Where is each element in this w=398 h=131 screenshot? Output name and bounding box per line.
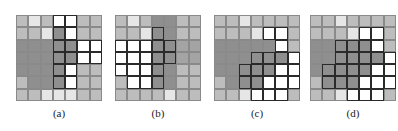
grid-cell (239, 76, 251, 88)
grid-cell (359, 89, 371, 101)
grid-cell (176, 27, 188, 39)
grid-cell (176, 52, 188, 64)
grid-cell (310, 52, 322, 64)
grid-cell (41, 76, 53, 88)
grid-cell (214, 64, 226, 76)
grid-cell (263, 27, 275, 39)
grid-cell (77, 52, 89, 64)
grid-cell (335, 15, 347, 27)
grid-cell (115, 40, 127, 52)
grid-cell (263, 40, 275, 52)
grid-cell (176, 15, 188, 27)
grid-cell (140, 40, 152, 52)
grid-cell (251, 64, 263, 76)
grid (310, 15, 396, 101)
grid-cell (189, 76, 201, 88)
grid-cell (65, 40, 77, 52)
grid-cell (335, 89, 347, 101)
grid-cell (152, 89, 164, 101)
grid-cell (226, 27, 238, 39)
grid-cell (226, 64, 238, 76)
grid-cell (251, 40, 263, 52)
grid-cell (214, 89, 226, 101)
grid-cell (176, 40, 188, 52)
grid-cell (189, 15, 201, 27)
grid-cell (347, 52, 359, 64)
grid-cell (359, 27, 371, 39)
grid-cell (115, 15, 127, 27)
grid-cell (189, 27, 201, 39)
grid-cell (359, 64, 371, 76)
panel-label: (c) (214, 107, 300, 119)
grid-cell (322, 27, 334, 39)
grid-cell (65, 52, 77, 64)
grid-cell (384, 64, 396, 76)
grid-cell (16, 40, 28, 52)
grid-cell (371, 76, 383, 88)
grid-cell (16, 76, 28, 88)
grid-cell (140, 89, 152, 101)
grid-cell (115, 76, 127, 88)
grid-cell (127, 52, 139, 64)
grid-cell (288, 15, 300, 27)
grid-cell (164, 40, 176, 52)
grid-cell (164, 52, 176, 64)
grid-cell (176, 89, 188, 101)
grid-cell (77, 76, 89, 88)
grid-cell (164, 15, 176, 27)
grid-cell (239, 15, 251, 27)
panel-label: (d) (310, 107, 396, 119)
grid-cell (214, 27, 226, 39)
grid-cell (65, 64, 77, 76)
grid-cell (239, 64, 251, 76)
grid-cell (41, 40, 53, 52)
grid-cell (335, 40, 347, 52)
grid-cell (65, 76, 77, 88)
grid-cell (41, 27, 53, 39)
grid-cell (371, 52, 383, 64)
grid-cell (16, 15, 28, 27)
panel-a: (a) (16, 15, 102, 101)
grid-cell (310, 76, 322, 88)
grid-cell (275, 52, 287, 64)
grid-cell (164, 27, 176, 39)
grid-cell (384, 52, 396, 64)
grid-cell (239, 89, 251, 101)
grid-cell (347, 40, 359, 52)
grid-cell (77, 40, 89, 52)
grid-cell (371, 27, 383, 39)
grid-cell (214, 76, 226, 88)
grid-cell (226, 89, 238, 101)
grid-cell (28, 64, 40, 76)
grid-cell (347, 15, 359, 27)
grid-cell (251, 27, 263, 39)
grid-cell (263, 15, 275, 27)
grid-cell (127, 64, 139, 76)
grid-cell (288, 76, 300, 88)
grid-cell (288, 52, 300, 64)
grid-cell (77, 15, 89, 27)
grid-cell (28, 52, 40, 64)
grid-cell (28, 89, 40, 101)
grid-cell (239, 40, 251, 52)
grid-cell (28, 40, 40, 52)
grid-cell (53, 89, 65, 101)
grid-cell (127, 89, 139, 101)
grid-cell (152, 27, 164, 39)
grid-cell (189, 89, 201, 101)
grid-cell (77, 89, 89, 101)
grid-cell (53, 76, 65, 88)
grid-cell (28, 15, 40, 27)
grid-cell (288, 27, 300, 39)
grid-cell (322, 89, 334, 101)
grid-cell (335, 27, 347, 39)
grid-cell (275, 76, 287, 88)
grid-cell (263, 64, 275, 76)
grid-cell (41, 64, 53, 76)
grid-cell (371, 40, 383, 52)
grid-cell (335, 76, 347, 88)
grid-cell (115, 52, 127, 64)
grid-cell (226, 15, 238, 27)
grid-cell (53, 27, 65, 39)
grid-cell (310, 40, 322, 52)
